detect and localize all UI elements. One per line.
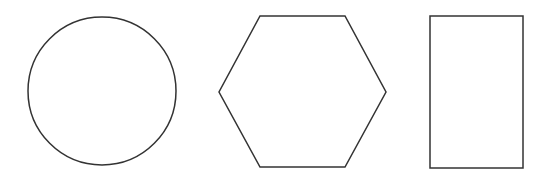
circle-shape: [28, 17, 176, 165]
rectangle-shape: [430, 16, 523, 168]
shapes-svg: [0, 0, 549, 184]
hexagon-shape: [219, 16, 386, 167]
diagram-canvas: [0, 0, 549, 184]
